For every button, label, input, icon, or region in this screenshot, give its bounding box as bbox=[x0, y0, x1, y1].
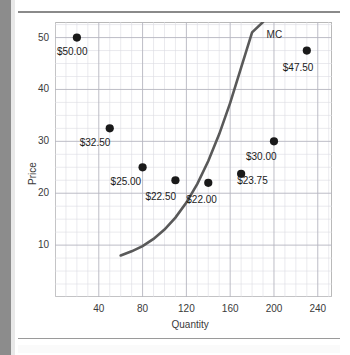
data-point-value-label: $32.50 bbox=[80, 137, 111, 148]
y-axis-tick-label: 10 bbox=[25, 239, 49, 250]
data-point-value-label: $30.00 bbox=[246, 151, 277, 162]
data-point-marker bbox=[204, 179, 212, 187]
x-axis-title: Quantity bbox=[172, 319, 209, 330]
data-point-marker bbox=[171, 176, 179, 184]
x-axis-tick-label: 120 bbox=[171, 303, 201, 314]
y-axis-title: Price bbox=[27, 162, 38, 185]
data-point-markers bbox=[73, 33, 311, 186]
data-point-marker bbox=[138, 163, 146, 171]
y-axis-tick-label: 20 bbox=[25, 187, 49, 198]
data-point-value-label: $22.50 bbox=[145, 191, 176, 202]
y-axis-tick-label: 40 bbox=[25, 83, 49, 94]
data-point-value-label: $25.00 bbox=[111, 176, 142, 187]
chart-data-layer bbox=[0, 0, 350, 355]
x-axis-tick-label: 200 bbox=[259, 303, 289, 314]
data-point-value-label: $22.00 bbox=[186, 194, 217, 205]
x-axis-tick-label: 240 bbox=[303, 303, 333, 314]
page-root: 1020304050 4080120160200240 $50.00$32.50… bbox=[0, 0, 350, 355]
data-point-value-label: $23.75 bbox=[237, 175, 268, 186]
mc-curve-annotation: MC bbox=[267, 29, 283, 40]
data-point-marker bbox=[303, 46, 311, 54]
data-point-marker bbox=[106, 124, 114, 132]
y-axis-tick-label: 30 bbox=[25, 135, 49, 146]
data-point-marker bbox=[73, 33, 81, 41]
data-point-value-label: $47.50 bbox=[283, 62, 314, 73]
x-axis-tick-label: 40 bbox=[84, 303, 114, 314]
mc-curve-line bbox=[121, 22, 263, 255]
y-axis-tick-label: 50 bbox=[25, 32, 49, 43]
price-quantity-scatter-chart: 1020304050 4080120160200240 $50.00$32.50… bbox=[0, 0, 350, 355]
x-axis-tick-label: 160 bbox=[215, 303, 245, 314]
x-axis-tick-label: 80 bbox=[128, 303, 158, 314]
data-point-marker bbox=[270, 137, 278, 145]
data-point-value-label: $50.00 bbox=[57, 46, 88, 57]
